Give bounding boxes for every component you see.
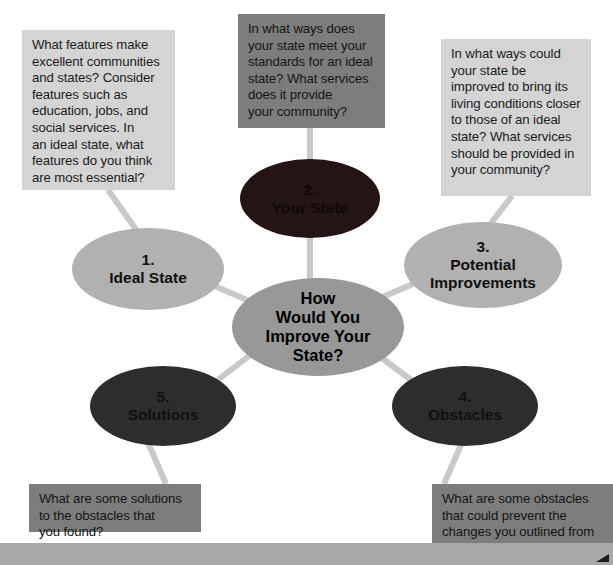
callout-potential-improvements: In what ways could your state be improve… — [441, 39, 591, 196]
node-ideal-state-label: 1. Ideal State — [109, 251, 187, 287]
node-potential-improvements[interactable]: 3. Potential Improvements — [404, 222, 562, 308]
mind-map-diagram: What features make excellent communities… — [0, 0, 613, 565]
node-potential-improvements-label: 3. Potential Improvements — [430, 238, 536, 292]
node-solutions-label: 5. Solutions — [128, 388, 199, 424]
callout-solutions: What are some solutions to the obstacles… — [29, 484, 201, 532]
callout-your-state: In what ways does your state meet your s… — [238, 14, 385, 128]
node-your-state-label: 2. Your State — [272, 181, 348, 217]
node-obstacles-label: 4. Obstacles — [428, 388, 502, 424]
resize-corner-icon[interactable] — [596, 554, 609, 562]
callout-obstacles: What are some obstacles that could preve… — [432, 484, 613, 543]
node-your-state[interactable]: 2. Your State — [240, 159, 380, 238]
callout-ideal-state: What features make excellent communities… — [22, 30, 175, 190]
node-ideal-state[interactable]: 1. Ideal State — [72, 228, 224, 310]
node-center-question[interactable]: How Would You Improve Your State? — [232, 278, 404, 376]
bottom-bar — [0, 543, 613, 565]
node-solutions[interactable]: 5. Solutions — [90, 366, 236, 446]
node-obstacles[interactable]: 4. Obstacles — [392, 366, 538, 446]
node-center-question-label: How Would You Improve Your State? — [266, 289, 371, 366]
